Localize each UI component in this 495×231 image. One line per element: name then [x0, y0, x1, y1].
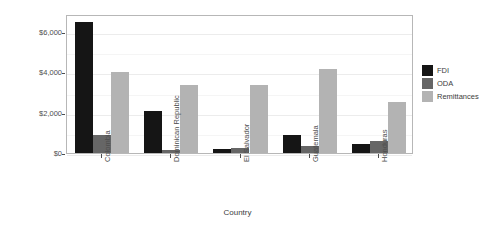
x-tick-mark: [240, 154, 241, 158]
bar-fdi-honduras: [352, 144, 370, 153]
bar-remittances-honduras: [388, 102, 406, 153]
x-tick-mark: [101, 154, 102, 158]
y-tick-label: $2,000: [16, 110, 62, 118]
x-tick-label-honduras: Honduras: [381, 129, 389, 162]
legend-label: ODA: [437, 79, 453, 88]
legend-swatch-icon: [422, 65, 433, 76]
plot-panel: [66, 15, 413, 154]
bar-remittances-dominican-republic: [180, 85, 198, 153]
chart-legend: FDIODARemittances: [422, 64, 494, 103]
x-tick-label-el-salvador: El Salvador: [243, 124, 251, 162]
x-tick-label-dominican-republic: Dominican Republic: [173, 95, 181, 162]
plot-area: [67, 16, 412, 153]
bar-group: [283, 16, 337, 153]
y-tick-mark: [62, 73, 65, 74]
y-axis-tick-labels: $0$2,000$4,000$6,000: [8, 0, 62, 231]
legend-item-oda[interactable]: ODA: [422, 77, 494, 90]
x-tick-label-colombia: Colombia: [104, 130, 112, 162]
x-tick-mark: [309, 154, 310, 158]
legend-swatch-icon: [422, 91, 433, 102]
legend-swatch-icon: [422, 78, 433, 89]
bar-group: [75, 16, 129, 153]
y-tick-label: $0: [16, 150, 62, 158]
bar-group: [213, 16, 267, 153]
y-tick-label: $6,000: [16, 29, 62, 37]
bar-remittances-guatemala: [319, 69, 337, 153]
bar-fdi-colombia: [75, 22, 93, 153]
legend-label: Remittances: [437, 92, 479, 101]
bar-chart: Millions of US$ $0$2,000$4,000$6,000 Col…: [0, 0, 495, 231]
y-tick-mark: [62, 114, 65, 115]
y-tick-label: $4,000: [16, 69, 62, 77]
legend-item-fdi[interactable]: FDI: [422, 64, 494, 77]
y-tick-mark: [62, 33, 65, 34]
x-tick-label-guatemala: Guatemala: [312, 125, 320, 162]
legend-label: FDI: [437, 66, 449, 75]
x-tick-mark: [170, 154, 171, 158]
y-tick-mark: [62, 154, 65, 155]
bar-fdi-guatemala: [283, 135, 301, 153]
bar-remittances-colombia: [111, 72, 129, 153]
bar-fdi-dominican-republic: [144, 111, 162, 153]
legend-item-remittances[interactable]: Remittances: [422, 90, 494, 103]
x-axis-title: Country: [60, 208, 415, 217]
bar-fdi-el-salvador: [213, 149, 231, 153]
bar-remittances-el-salvador: [250, 85, 268, 153]
